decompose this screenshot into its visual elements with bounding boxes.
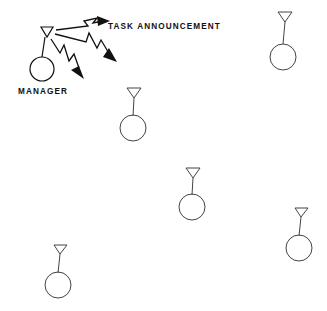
bolt-arrow-ese-head bbox=[103, 48, 117, 62]
agent-stem bbox=[299, 217, 301, 236]
agent-stem bbox=[58, 254, 60, 273]
agent-body-circle bbox=[179, 194, 205, 220]
agent-node-upper-middle[interactable] bbox=[120, 88, 146, 141]
bolt-arrow-se-path bbox=[51, 39, 79, 68]
agent-antenna-icon bbox=[295, 208, 308, 217]
agent-node-bottom-right[interactable] bbox=[286, 208, 312, 261]
manager-label: MANAGER bbox=[18, 87, 68, 96]
manager-stem bbox=[42, 37, 45, 57]
manager-body-circle bbox=[30, 57, 54, 81]
agent-body-circle bbox=[45, 272, 71, 298]
agent-stem bbox=[283, 22, 285, 44]
bolt-arrow-ese-path bbox=[55, 33, 110, 55]
diagram-canvas: TASK ANNOUNCEMENT MANAGER bbox=[0, 0, 327, 311]
task-announcement-label: TASK ANNOUNCEMENT bbox=[108, 22, 221, 31]
agent-antenna-icon bbox=[278, 12, 292, 22]
bolt-arrow-right bbox=[56, 16, 110, 30]
agent-body-circle bbox=[120, 115, 146, 141]
agent-body-circle bbox=[270, 44, 296, 70]
manager-node[interactable] bbox=[30, 27, 54, 81]
agent-antenna-icon bbox=[54, 245, 67, 254]
bolt-arrow-se-head bbox=[71, 66, 84, 79]
agent-antenna-icon bbox=[186, 168, 200, 178]
bolt-arrow-southeast bbox=[51, 39, 84, 79]
agent-node-bottom-left[interactable] bbox=[45, 245, 71, 298]
agent-antenna-icon bbox=[127, 88, 141, 98]
agent-body-circle bbox=[286, 235, 312, 261]
agent-node-center[interactable] bbox=[179, 168, 205, 220]
manager-antenna-icon bbox=[41, 27, 53, 37]
diagram-vector-layer bbox=[0, 0, 327, 311]
bolt-arrow-right-path bbox=[56, 18, 103, 30]
agent-stem bbox=[192, 178, 193, 195]
agent-node-top-right[interactable] bbox=[270, 12, 296, 70]
agent-stem bbox=[133, 98, 134, 116]
